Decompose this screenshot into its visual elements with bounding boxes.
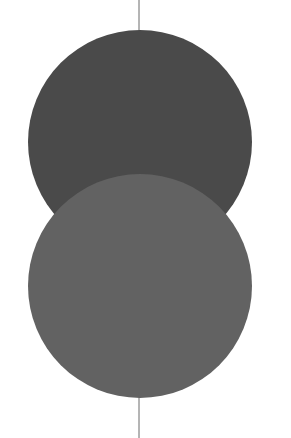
lower-circle (28, 174, 252, 398)
overlapping-circles-diagram (0, 0, 291, 438)
